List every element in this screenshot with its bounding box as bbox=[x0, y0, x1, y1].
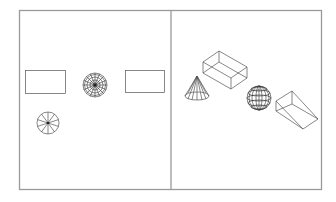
box-top-view-shape bbox=[26, 71, 66, 94]
drawing-canvas bbox=[0, 0, 336, 202]
top-view-panel bbox=[26, 71, 165, 135]
isometric-view-panel bbox=[185, 51, 318, 129]
wedge-shape bbox=[276, 91, 318, 129]
wedge-top-view-shape bbox=[126, 71, 165, 93]
cone-top-view-shape bbox=[37, 112, 59, 134]
cone-shape bbox=[185, 76, 209, 100]
sphere-top-view-shape bbox=[83, 73, 107, 97]
box-shape bbox=[203, 51, 247, 89]
sphere-shape bbox=[247, 86, 271, 110]
